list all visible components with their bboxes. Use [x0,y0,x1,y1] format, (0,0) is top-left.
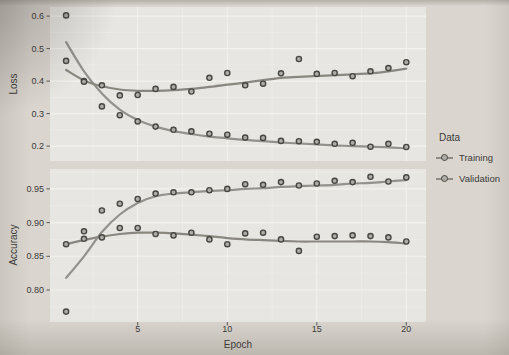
data-point-training-loss [189,129,194,134]
data-point-training-loss [99,104,104,109]
x-tick-label: 20 [401,324,411,334]
data-point-validation-loss [332,70,337,75]
data-point-validation-accuracy [81,236,86,241]
legend: Data Training Validation [436,132,500,194]
data-point-training-loss [386,141,391,146]
training-key-icon [436,154,453,162]
data-point-validation-loss [171,84,176,89]
data-point-validation-accuracy [296,248,301,253]
y-tick-label: 0.4 [31,76,44,86]
data-point-validation-loss [64,58,69,63]
data-point-validation-loss [81,79,86,84]
data-point-validation-accuracy [332,234,337,239]
data-point-validation-loss [368,69,373,74]
data-point-training-accuracy [64,309,69,314]
data-point-training-loss [296,139,301,144]
data-point-validation-accuracy [64,242,69,247]
data-point-training-loss [332,141,337,146]
data-point-training-accuracy [350,180,355,185]
y-tick-label: 0.2 [31,141,44,151]
legend-item-training: Training [436,152,500,163]
data-point-validation-accuracy [189,230,194,235]
y-tick-label: 0.5 [31,44,44,54]
data-point-training-accuracy [261,182,266,187]
data-point-validation-accuracy [117,225,122,230]
data-point-validation-loss [99,83,104,88]
data-point-training-loss [243,135,248,140]
y-tick-label: 0.90 [26,218,44,228]
legend-label-validation: Validation [459,173,500,184]
y-tick-label: 0.95 [26,184,44,194]
data-point-training-loss [135,119,140,124]
data-point-training-loss [207,131,212,136]
data-point-training-loss [153,124,158,129]
data-point-validation-loss [225,70,230,75]
data-point-training-accuracy [386,179,391,184]
photographed-training-curves-figure: 0.60.50.40.30.20.950.900.850.805101520 L… [0,0,509,355]
data-point-validation-accuracy [386,235,391,240]
panel-accuracy [50,169,426,322]
data-point-validation-accuracy [171,233,176,238]
data-point-validation-loss [189,89,194,94]
y-axis-title-accuracy: Accuracy [8,224,19,265]
data-point-training-loss [314,139,319,144]
data-point-training-loss [404,144,409,149]
data-point-training-loss [261,135,266,140]
data-point-validation-accuracy [350,233,355,238]
data-point-validation-loss [404,60,409,65]
x-tick-label: 5 [135,324,140,334]
data-point-validation-loss [153,86,158,91]
legend-title: Data [439,132,500,143]
data-point-validation-accuracy [225,242,230,247]
data-point-validation-loss [296,56,301,61]
data-point-training-accuracy [368,174,373,179]
data-point-validation-loss [386,66,391,71]
data-point-validation-accuracy [404,239,409,244]
x-tick-label: 15 [312,324,322,334]
data-point-training-loss [225,132,230,137]
data-point-training-accuracy [296,183,301,188]
data-point-training-loss [117,113,122,118]
data-point-validation-accuracy [368,234,373,239]
data-point-validation-loss [243,83,248,88]
x-axis-title: Epoch [224,339,252,350]
data-point-training-accuracy [171,190,176,195]
y-tick-label: 0.85 [26,251,44,261]
data-point-training-accuracy [332,178,337,183]
data-point-validation-loss [117,93,122,98]
data-point-training-accuracy [117,201,122,206]
x-tick-label: 10 [222,324,232,334]
data-point-training-accuracy [243,182,248,187]
data-point-training-accuracy [225,186,230,191]
data-point-validation-loss [207,75,212,80]
data-point-training-accuracy [207,188,212,193]
data-point-training-loss [278,138,283,143]
data-point-training-loss [171,127,176,132]
data-point-training-accuracy [314,181,319,186]
y-tick-label: 0.80 [26,285,44,295]
data-point-validation-loss [278,71,283,76]
data-point-training-loss [368,144,373,149]
data-point-validation-loss [135,92,140,97]
data-point-validation-accuracy [153,231,158,236]
data-point-validation-accuracy [243,231,248,236]
y-tick-label: 0.6 [31,11,44,21]
data-point-validation-loss [314,71,319,76]
data-point-training-loss [64,13,69,18]
data-point-validation-accuracy [261,230,266,235]
y-axis-title-loss: Loss [8,73,19,94]
validation-key-icon [436,175,453,183]
data-point-validation-accuracy [135,225,140,230]
data-point-training-accuracy [135,196,140,201]
data-point-training-accuracy [81,229,86,234]
y-tick-label: 0.3 [31,109,44,119]
data-point-validation-loss [261,81,266,86]
legend-item-validation: Validation [436,173,500,184]
data-point-training-accuracy [189,190,194,195]
data-point-validation-accuracy [207,237,212,242]
data-point-validation-accuracy [99,235,104,240]
data-point-validation-accuracy [278,237,283,242]
data-point-training-accuracy [99,208,104,213]
chart-canvas: 0.60.50.40.30.20.950.900.850.805101520 [0,0,509,355]
legend-label-training: Training [459,152,493,163]
